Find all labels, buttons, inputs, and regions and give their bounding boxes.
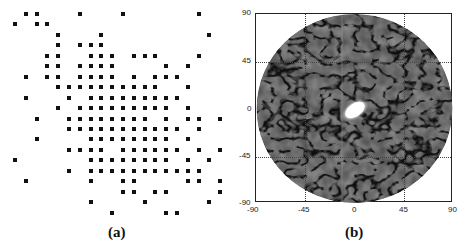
array-element <box>45 54 49 58</box>
array-element <box>89 127 93 131</box>
array-element <box>67 127 71 131</box>
array-element <box>186 158 190 162</box>
array-element <box>132 117 136 121</box>
array-element <box>175 96 179 100</box>
array-element <box>218 148 222 152</box>
array-element <box>56 106 60 110</box>
array-element <box>110 54 114 58</box>
array-element <box>99 85 103 89</box>
array-element <box>99 64 103 68</box>
array-element <box>78 148 82 152</box>
array-element <box>164 148 168 152</box>
array-element <box>207 33 211 37</box>
array-element <box>99 106 103 110</box>
gridline-y-neg45 <box>256 157 451 158</box>
array-element <box>132 158 136 162</box>
array-element <box>143 137 147 141</box>
array-element <box>164 158 168 162</box>
array-element <box>89 75 93 79</box>
array-element <box>110 211 114 215</box>
array-element <box>67 85 71 89</box>
array-element <box>132 106 136 110</box>
array-element <box>99 137 103 141</box>
array-element <box>197 127 201 131</box>
gridline-x-neg45 <box>305 14 306 201</box>
array-element <box>164 190 168 194</box>
xtick-90: 90 <box>448 205 457 214</box>
array-element <box>153 85 157 89</box>
array-element <box>67 96 71 100</box>
array-element <box>143 106 147 110</box>
array-element <box>197 54 201 58</box>
panel-b-beam-pattern: 90 45 0 -45 -90 -90 -45 0 45 90 (b) <box>236 0 466 250</box>
array-element <box>99 33 103 37</box>
array-element <box>132 137 136 141</box>
array-element <box>143 127 147 131</box>
array-element <box>218 179 222 183</box>
array-element <box>78 64 82 68</box>
array-element <box>186 117 190 121</box>
array-element <box>143 158 147 162</box>
array-element <box>89 96 93 100</box>
array-element <box>153 148 157 152</box>
array-element <box>164 117 168 121</box>
array-element <box>186 137 190 141</box>
array-element <box>121 137 125 141</box>
array-element <box>143 117 147 121</box>
array-element <box>186 106 190 110</box>
array-element <box>153 169 157 173</box>
array-element <box>132 127 136 131</box>
array-element <box>99 54 103 58</box>
array-element <box>153 106 157 110</box>
array-element <box>186 179 190 183</box>
array-element <box>218 190 222 194</box>
array-element <box>153 75 157 79</box>
array-element <box>78 75 82 79</box>
array-element <box>24 179 28 183</box>
array-element <box>35 12 39 16</box>
caption-b: (b) <box>345 224 363 241</box>
array-element <box>99 117 103 121</box>
array-element <box>132 96 136 100</box>
array-element <box>89 137 93 141</box>
plot-frame <box>255 13 452 202</box>
array-element <box>121 158 125 162</box>
array-element <box>164 211 168 215</box>
array-element <box>143 85 147 89</box>
array-element <box>207 158 211 162</box>
array-element <box>164 64 168 68</box>
array-element <box>132 85 136 89</box>
array-element <box>121 169 125 173</box>
array-element <box>143 169 147 173</box>
array-element <box>121 117 125 121</box>
array-element <box>56 85 60 89</box>
array-element <box>89 106 93 110</box>
array-element <box>24 96 28 100</box>
array-element <box>175 75 179 79</box>
array-element <box>175 211 179 215</box>
array-element <box>99 148 103 152</box>
xtick-neg90: -90 <box>247 205 259 214</box>
array-element <box>132 169 136 173</box>
array-element <box>153 158 157 162</box>
array-element <box>110 137 114 141</box>
caption-a: (a) <box>108 224 126 241</box>
array-element <box>164 96 168 100</box>
array-element <box>132 190 136 194</box>
array-element <box>89 64 93 68</box>
array-element <box>186 64 190 68</box>
array-element <box>89 200 93 204</box>
array-element <box>13 22 17 26</box>
xtick-neg45: -45 <box>298 205 310 214</box>
array-element <box>45 22 49 26</box>
array-element <box>35 137 39 141</box>
array-element <box>78 127 82 131</box>
array-element <box>45 75 49 79</box>
panel-a-array-layout: (a) <box>0 0 236 250</box>
xtick-45: 45 <box>399 205 408 214</box>
array-element <box>99 169 103 173</box>
array-element <box>56 33 60 37</box>
array-element <box>78 106 82 110</box>
array-element <box>143 54 147 58</box>
array-element <box>89 158 93 162</box>
